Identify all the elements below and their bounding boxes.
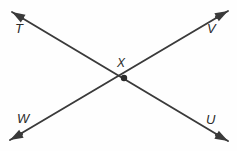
endpoint-dot-w [19,132,23,136]
endpoint-dot-t [20,16,24,20]
line-segment-tu [12,12,228,141]
endpoint-dot-u [215,133,219,137]
endpoint-dot-v [215,15,219,19]
vertex-label-v: V [207,22,216,35]
vertex-label-x: X [117,57,125,70]
intersection-point-dot [121,75,127,81]
vertex-label-w: W [17,112,29,125]
vertex-label-u: U [206,113,215,126]
geometry-figure: T V W U X [0,0,237,151]
intersecting-lines-svg [0,0,237,151]
vertex-label-t: T [15,22,23,35]
